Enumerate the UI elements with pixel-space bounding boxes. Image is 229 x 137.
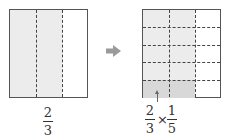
- column-divider: [169, 10, 170, 97]
- left-whole-square: [9, 9, 88, 98]
- row-divider: [143, 62, 220, 63]
- denominator: 3: [44, 124, 52, 137]
- numerator: 1: [168, 104, 176, 117]
- fraction-bar: [145, 119, 155, 120]
- denominator: 3: [146, 122, 154, 135]
- row-divider: [143, 27, 220, 28]
- numerator: 2: [44, 106, 52, 119]
- first-fraction-label: 2 3: [145, 104, 155, 135]
- fraction-bar: [43, 121, 53, 122]
- fraction-bar: [167, 119, 177, 120]
- right-grid-square: [142, 9, 221, 98]
- column-divider: [36, 10, 37, 97]
- column-divider: [62, 10, 63, 97]
- numerator: 2: [146, 104, 154, 117]
- second-fraction-label: 1 5: [167, 104, 177, 135]
- pointer-line: [157, 93, 158, 102]
- right-arrow-icon: [106, 45, 122, 57]
- column-divider: [195, 10, 196, 97]
- row-divider: [143, 45, 220, 46]
- denominator: 5: [168, 122, 176, 135]
- row-divider: [143, 80, 220, 81]
- left-fraction-label: 2 3: [43, 106, 53, 137]
